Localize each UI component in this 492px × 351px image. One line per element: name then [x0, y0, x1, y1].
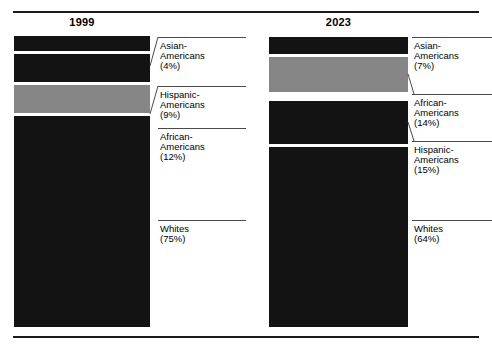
leader-lines-1999 [150, 0, 162, 351]
segment-1999-hispanic-americans[interactable] [14, 54, 150, 82]
segment-2023-hispanic-americans[interactable] [269, 101, 408, 144]
segment-2023-whites[interactable] [269, 147, 408, 327]
label-rule [412, 94, 492, 95]
label-value: (12%) [160, 152, 185, 163]
label-rule [158, 220, 246, 221]
label-rule [158, 128, 246, 129]
label-value: (4%) [160, 61, 180, 72]
label-rule [158, 86, 246, 87]
label-rule [412, 37, 492, 38]
label-column-2023: Asian- Americans (7%) African- Americans… [412, 0, 492, 351]
leader-lines-2023 [408, 0, 418, 351]
segment-2023-african-americans[interactable] [269, 57, 408, 92]
segment-1999-whites[interactable] [14, 116, 150, 327]
segment-1999-african-americans[interactable] [14, 85, 150, 113]
label-rule [412, 141, 492, 142]
segment-2023-asian-americans[interactable] [269, 37, 408, 54]
column-chart-1999: 1999 Asian- Americans (4%) Hispanic- Ame… [0, 0, 246, 351]
column-title-1999: 1999 [14, 16, 150, 28]
label-value: (9%) [160, 110, 180, 121]
column-chart-2023: 2023 Asian- Americans (7%) African- Amer… [246, 0, 492, 351]
label-rule [158, 37, 246, 38]
segment-1999-asian-americans[interactable] [14, 36, 150, 51]
column-title-2023: 2023 [269, 16, 408, 28]
label-column-1999: Asian- Americans (4%) Hispanic- American… [158, 0, 246, 351]
label-rule [412, 220, 492, 221]
label-value: (75%) [160, 234, 185, 245]
